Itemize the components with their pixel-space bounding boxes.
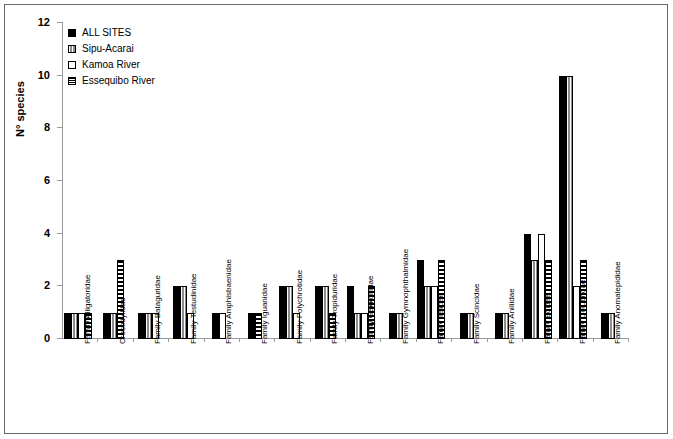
bar (322, 286, 329, 339)
bar (424, 286, 431, 339)
x-tick-mark (97, 338, 98, 342)
legend-item: ALL SITES (68, 27, 155, 38)
bar (180, 286, 187, 339)
bar (347, 286, 354, 339)
x-tick-label: Family Polychrotidae (295, 270, 304, 344)
x-tick-mark (487, 338, 488, 342)
bar (286, 286, 293, 339)
x-tick-label: Family Alligatoridae (83, 275, 92, 344)
bar-group (524, 22, 552, 339)
bar (212, 313, 219, 339)
legend-item: Essequibo River (68, 75, 155, 86)
x-tick-label: Family Testudinidae (189, 273, 198, 344)
bar (559, 76, 566, 339)
x-tick-label: Family Teiidae (436, 293, 445, 344)
x-tick-mark (168, 338, 169, 342)
bar (524, 234, 531, 339)
legend-swatch-icon (68, 29, 76, 37)
legend-item: Sipu-Acarai (68, 43, 155, 54)
x-tick-mark (380, 338, 381, 342)
x-tick-mark (557, 338, 558, 342)
bar (531, 260, 538, 339)
x-tick-mark (593, 338, 594, 342)
x-tick-mark (204, 338, 205, 342)
legend-label: Sipu-Acarai (82, 43, 134, 54)
x-tick-mark (628, 338, 629, 342)
x-tick-mark (451, 338, 452, 342)
bar (460, 313, 467, 339)
bar (173, 286, 180, 339)
y-tick-label: 8 (24, 121, 50, 133)
x-tick-mark (274, 338, 275, 342)
bar-group (417, 22, 445, 339)
bar (248, 313, 255, 339)
y-tick-label: 10 (24, 69, 50, 81)
legend-label: Essequibo River (82, 75, 155, 86)
x-tick-mark (416, 338, 417, 342)
x-tick-label: Family Gekkonidae (366, 276, 375, 344)
bar (110, 313, 117, 339)
bar (389, 313, 396, 339)
x-tick-mark (310, 338, 311, 342)
x-tick-label: Family Scincidae (472, 284, 481, 344)
x-tick-label: Family Iguanidae (260, 283, 269, 344)
bar (103, 313, 110, 339)
chart-legend: ALL SITESSipu-AcaraiKamoa RiverEssequibo… (68, 27, 155, 86)
y-tick-label: 0 (24, 332, 50, 344)
bar (138, 313, 145, 339)
bar (566, 76, 573, 339)
y-tick-label: 2 (24, 279, 50, 291)
bar (417, 260, 424, 339)
legend-swatch-icon (68, 77, 76, 85)
x-tick-mark (133, 338, 134, 342)
chart-figure: N° species 024681012 Family Alligatorida… (0, 0, 673, 439)
bar (315, 286, 322, 339)
bar (495, 313, 502, 339)
bar (354, 313, 361, 339)
x-tick-label: Family Boidae (543, 293, 552, 344)
legend-swatch-icon (68, 45, 76, 53)
bar-cluster (417, 22, 445, 339)
bar (279, 286, 286, 339)
x-tick-label: Family Gymnophthalmidae (401, 249, 410, 344)
legend-label: ALL SITES (82, 27, 131, 38)
bar (601, 313, 608, 339)
x-tick-mark (522, 338, 523, 342)
bar (64, 313, 71, 339)
bar (145, 313, 152, 339)
x-tick-label: Family Tropiduridae (330, 274, 339, 344)
bar (71, 313, 78, 339)
legend-swatch-icon (68, 61, 76, 69)
legend-item: Kamoa River (68, 59, 155, 70)
x-tick-label: Crocodylidae (118, 297, 127, 344)
x-tick-label: Family Colubridae (578, 280, 587, 344)
x-tick-mark (345, 338, 346, 342)
y-tick-label: 12 (24, 16, 50, 28)
bar-cluster (524, 22, 552, 339)
x-tick-label: Family Amphisbaenidae (224, 259, 233, 344)
x-tick-label: Family Aniliidae (507, 288, 516, 344)
x-tick-mark (239, 338, 240, 342)
y-tick-label: 6 (24, 174, 50, 186)
y-tick-label: 4 (24, 227, 50, 239)
legend-label: Kamoa River (82, 59, 140, 70)
x-tick-label: Family Anomalepididae (613, 261, 622, 344)
x-tick-label: Family Bataguridae (153, 275, 162, 344)
